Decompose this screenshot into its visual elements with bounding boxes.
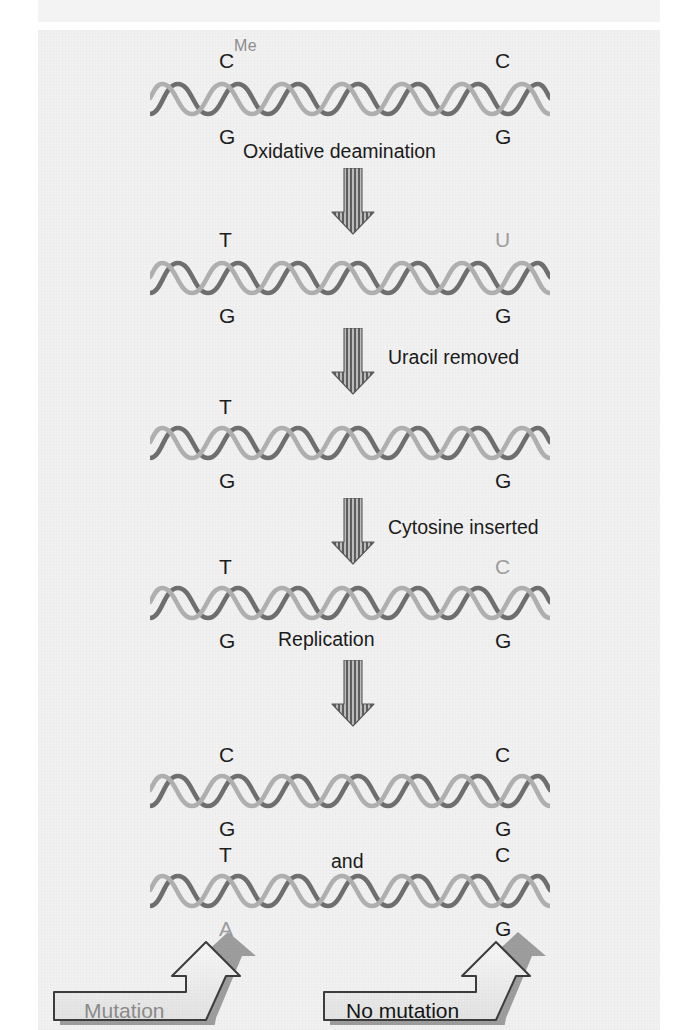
process-label-uracil-removed: Uracil removed [388,348,519,368]
dna-helix-1 [150,76,550,122]
dna-helix-3 [150,420,550,466]
dna-helix-6 [150,868,550,914]
base-label-right-bottom-4: G [495,630,512,651]
process-arrow-2 [330,328,376,396]
process-arrow-4 [330,660,376,728]
base-label-left-top-5: C [219,744,234,765]
process-label-cytosine-inserted: Cytosine inserted [388,518,539,538]
process-arrow-3 [330,498,376,566]
base-label-left-top-2: T [219,229,232,250]
methyl-group-label: Me [234,38,257,54]
process-label-oxidative-deamination: Oxidative deamination [243,142,436,162]
base-label-left-top-3: T [219,396,232,417]
helix-graphic [150,420,550,466]
outcome-banner-mutation: Mutation [10,920,280,1025]
helix-graphic [150,580,550,626]
base-label-left-bottom-3: G [219,470,236,491]
process-arrow-1 [330,168,376,236]
base-label-left-bottom-5: G [219,818,236,839]
outcome-banner-no-mutation: No mutation [300,920,590,1025]
dna-helix-2 [150,255,550,301]
process-label-replication: Replication [278,630,374,650]
base-label-left-top-6: T [219,844,232,865]
base-label-right-bottom-5: G [495,818,512,839]
helix-graphic [150,255,550,301]
base-label-left-top-4: T [219,556,232,577]
base-label-right-top-5: C [495,744,510,765]
base-label-right-top-2: U [495,229,510,250]
outcome-label-no-mutation: No mutation [346,1000,459,1021]
base-label-right-top-1: C [495,50,510,71]
base-label-right-top-4: C [495,556,510,577]
base-label-left-bottom-2: G [219,305,236,326]
base-label-right-bottom-1: G [495,126,512,147]
dna-helix-4 [150,580,550,626]
helix-graphic [150,768,550,814]
base-label-left-bottom-1: G [219,126,236,147]
base-label-right-bottom-2: G [495,305,512,326]
helix-graphic [150,76,550,122]
figure-panel: C Me G C G Oxidative deamination T G U G [38,30,660,1030]
outcome-label-mutation: Mutation [84,1000,165,1021]
dna-helix-5 [150,768,550,814]
base-label-right-top-6: C [495,844,510,865]
clipped-header-strip [38,0,660,22]
base-label-left-bottom-4: G [219,630,236,651]
base-label-right-bottom-3: G [495,470,512,491]
base-label-left-top-1: C [219,50,234,71]
helix-graphic [150,868,550,914]
